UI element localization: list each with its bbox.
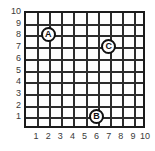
x-axis-tick-label: 10 (138, 132, 152, 141)
y-axis-tick-label: 4 (3, 77, 21, 86)
grid-line-horizontal (26, 82, 143, 84)
point-marker-b: B (89, 109, 104, 124)
grid-line-vertical (37, 13, 39, 126)
grid-line-vertical (61, 13, 63, 126)
grid-line-horizontal (26, 59, 143, 61)
y-axis-tick-label: 10 (3, 7, 21, 16)
y-axis-tick-label: 3 (3, 88, 21, 97)
point-marker-a: A (41, 27, 56, 42)
y-axis-tick-label: 6 (3, 53, 21, 62)
grid-line-horizontal (26, 106, 143, 108)
grid-line-horizontal (26, 94, 143, 96)
grid-line-horizontal (26, 24, 143, 26)
grid-line-vertical (110, 13, 112, 126)
point-marker-c: C (101, 39, 116, 54)
y-axis-tick-label: 1 (3, 112, 21, 121)
grid-line-vertical (134, 13, 136, 126)
grid-line-horizontal (26, 117, 143, 119)
y-axis-tick-label: 7 (3, 42, 21, 51)
y-axis-tick-label: 2 (3, 100, 21, 109)
y-axis-tick-label: 9 (3, 18, 21, 27)
coordinate-grid-figure: 10987654321 12345678910 ACB (0, 0, 155, 151)
grid-line-horizontal (26, 71, 143, 73)
grid-line-horizontal (26, 47, 143, 49)
grid-line-vertical (73, 13, 75, 126)
y-axis-tick-label: 8 (3, 30, 21, 39)
grid-line-vertical (122, 13, 124, 126)
grid-line-vertical (86, 13, 88, 126)
y-axis-tick-label: 5 (3, 65, 21, 74)
